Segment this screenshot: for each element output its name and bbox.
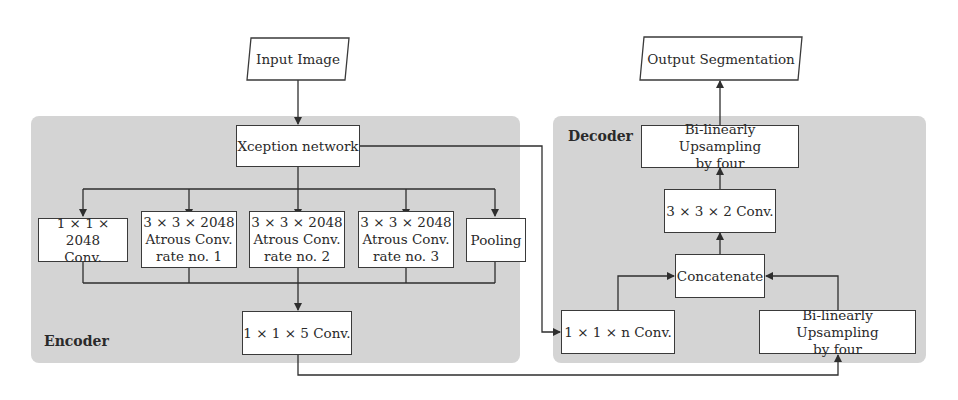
upsample-top-node: Bi-linearly Upsampling by four [641, 125, 799, 168]
branch-conv-1x1: 1 × 1 × 2048 Conv. [38, 218, 128, 262]
branch-atrous-rate-2: 3 × 3 × 2048 Atrous Conv. rate no. 2 [249, 211, 345, 268]
conv-1x1xn-node: 1 × 1 × n Conv. [561, 310, 675, 354]
conv-1x1xn-label: 1 × 1 × n Conv. [564, 324, 671, 341]
conv-3x3x2-node: 3 × 3 × 2 Conv. [664, 189, 776, 233]
upsample-bottom-node: Bi-linearly Upsampling by four [759, 310, 916, 354]
fusion-conv-1x1x5: 1 × 1 × 5 Conv. [242, 311, 352, 355]
branch-atrous-rate-1: 3 × 3 × 2048 Atrous Conv. rate no. 1 [141, 211, 237, 268]
branch-atrous-rate-3: 3 × 3 × 2048 Atrous Conv. rate no. 3 [358, 211, 454, 268]
xception-network-node: Xception network [236, 125, 360, 167]
output-segmentation-node: Output Segmentation [639, 36, 803, 81]
output-segmentation-label: Output Segmentation [639, 36, 803, 81]
encoder-label: Encoder [44, 333, 109, 349]
input-image-node: Input Image [246, 37, 350, 81]
concatenate-node: Concatenate [675, 254, 765, 298]
decoder-label: Decoder [568, 128, 633, 144]
input-image-label: Input Image [246, 37, 350, 81]
branch-pooling: Pooling [466, 218, 526, 262]
